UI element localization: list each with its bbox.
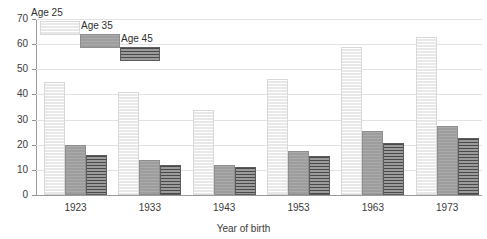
- y-tick-label: 10: [4, 165, 28, 175]
- legend-swatch-age-45: [120, 47, 160, 61]
- x-tick-label-1943: 1943: [189, 203, 259, 213]
- gridline-0: [36, 195, 482, 196]
- bar-1963-age-35: [362, 131, 383, 195]
- bar-1933-age-25: [118, 92, 139, 195]
- legend-label: Age 35: [81, 21, 113, 31]
- bar-1933-age-35: [139, 160, 160, 195]
- y-tick-label: 60: [4, 39, 28, 49]
- bar-1923-age-45: [86, 155, 107, 195]
- bar-1943-age-45: [235, 167, 256, 195]
- bar-group-1953: [267, 19, 330, 195]
- bar-1963-age-25: [341, 47, 362, 195]
- bar-1923-age-35: [65, 145, 86, 195]
- bar-group-1973: [416, 19, 479, 195]
- y-tick-label: 50: [4, 64, 28, 74]
- bar-group-1963: [341, 19, 404, 195]
- bar-1943-age-25: [193, 110, 214, 195]
- legend-swatch-age-35: [80, 34, 120, 48]
- y-tick-label: 40: [4, 89, 28, 99]
- bar-1973-age-45: [458, 138, 479, 195]
- bar-chart: 010203040506070 192319331943195319631973…: [0, 0, 487, 239]
- x-tick-label-1923: 1923: [41, 203, 111, 213]
- bar-1943-age-35: [214, 165, 235, 195]
- x-tick-label-1963: 1963: [338, 203, 408, 213]
- x-axis-title: Year of birth: [0, 224, 487, 234]
- bar-1973-age-35: [437, 126, 458, 195]
- chart-legend: Age 25 Age 35 Age 45: [31, 8, 231, 56]
- bar-1953-age-45: [309, 156, 330, 195]
- bar-1953-age-25: [267, 79, 288, 195]
- bar-1953-age-35: [288, 151, 309, 195]
- bar-1933-age-45: [160, 165, 181, 195]
- y-tick-label: 30: [4, 115, 28, 125]
- y-tick-label: 20: [4, 140, 28, 150]
- bar-1923-age-25: [44, 82, 65, 195]
- x-tick-label-1933: 1933: [115, 203, 185, 213]
- legend-swatch-age-25: [40, 21, 80, 35]
- legend-label: Age 45: [121, 34, 153, 44]
- x-tick-label-1973: 1973: [412, 203, 482, 213]
- y-tick-label: 70: [4, 14, 28, 24]
- x-tick-label-1953: 1953: [264, 203, 334, 213]
- bar-1973-age-25: [416, 37, 437, 195]
- legend-label: Age 25: [31, 8, 63, 18]
- y-tick-label: 0: [4, 190, 28, 200]
- bar-1963-age-45: [383, 143, 404, 195]
